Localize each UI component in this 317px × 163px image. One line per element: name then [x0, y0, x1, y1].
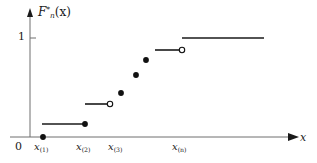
empirical-cdf-figure: F*n(x) x 1 0 x(1) x(2) x(3) x(n) [0, 0, 317, 163]
x-tick-label-3: x(3) [108, 142, 122, 153]
plot-canvas [0, 0, 317, 163]
y-tick-label-1: 1 [18, 31, 25, 42]
x-tick-label-1-sub: (1) [40, 146, 49, 153]
open-markers [107, 47, 184, 106]
closed-marker-x1 [40, 134, 46, 140]
closed-marker-x2 [82, 121, 88, 127]
y-axis [27, 8, 36, 137]
y-axis-label: F*n(x) [38, 6, 71, 19]
closed-marker-b [133, 72, 139, 78]
closed-markers [40, 57, 149, 140]
open-marker-xn [179, 47, 184, 52]
x-tick-label-1: x(1) [34, 142, 48, 153]
x-tick-label-n-sub: (n) [178, 146, 187, 153]
open-marker-x3 [107, 101, 112, 106]
closed-marker-a [118, 90, 124, 96]
closed-marker-c [143, 57, 149, 63]
x-axis [10, 133, 299, 141]
x-tick-label-2: x(2) [76, 142, 90, 153]
x-tick-label-2-sub: (2) [82, 146, 91, 153]
x-tick-label-3-sub: (3) [114, 146, 123, 153]
x-tick-label-n: x(n) [172, 142, 186, 153]
step-segments [42, 38, 264, 124]
y-axis-label-arg: (x) [55, 5, 71, 19]
origin-label: 0 [15, 141, 22, 152]
x-axis-label: x [300, 132, 306, 143]
